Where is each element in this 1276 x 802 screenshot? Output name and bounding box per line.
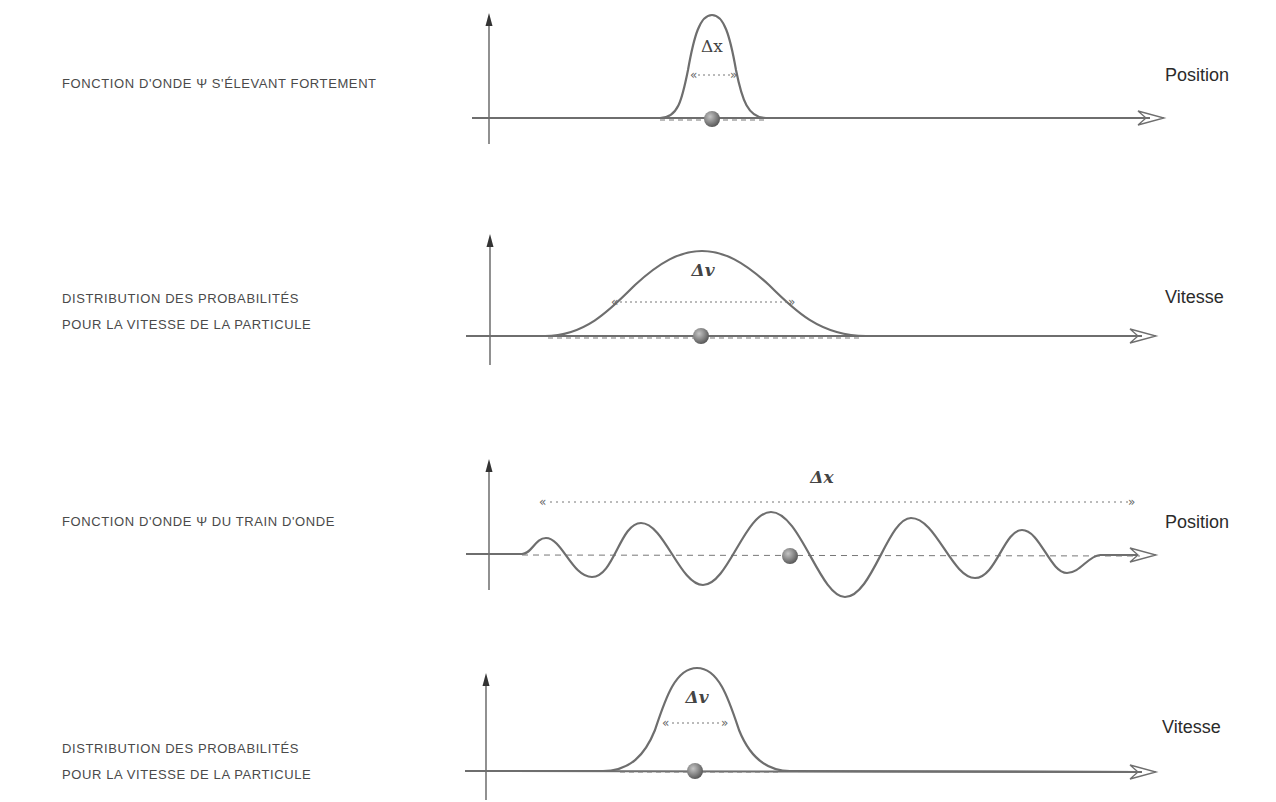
double-chevron-right-icon: » [730, 68, 737, 82]
panel-2-curve [466, 251, 1142, 336]
double-chevron-right-icon: » [721, 716, 728, 730]
double-chevron-right-icon: » [788, 295, 795, 309]
panel-4-delta-label: Δv [684, 687, 709, 707]
panel-4: Δv « » [465, 668, 1156, 800]
panel-2-particle-icon [693, 328, 709, 344]
panel-1: Δx « » [472, 13, 1164, 144]
panel-2-width-indicator: « » [611, 295, 795, 309]
panel-3-particle-icon [782, 548, 798, 564]
panel-3-y-arrowhead-icon [486, 459, 493, 472]
panel-3-y-axis [486, 459, 493, 590]
panel-1-particle-icon [704, 111, 720, 127]
panel-1-y-arrowhead-icon [486, 13, 493, 26]
panel-2-y-axis [487, 234, 494, 365]
panel-4-curve [465, 668, 1142, 772]
double-chevron-left-icon: « [690, 68, 697, 82]
panel-1-y-axis [486, 13, 493, 144]
double-chevron-right-icon: » [1128, 495, 1135, 509]
diagram-canvas: Δx « » Δv « » [0, 0, 1276, 802]
panel-1-delta-label: Δx [701, 36, 723, 56]
panel-2: Δv « » [466, 234, 1156, 365]
panel-3-x-axis [1100, 548, 1156, 562]
panel-2-delta-label: Δv [690, 260, 715, 280]
panel-1-width-indicator: « » [690, 68, 737, 82]
double-chevron-left-icon: « [662, 716, 669, 730]
double-chevron-left-icon: « [539, 495, 546, 509]
panel-1-curve [472, 15, 1150, 118]
panel-4-y-axis [483, 673, 490, 800]
double-chevron-left-icon: « [611, 295, 618, 309]
panel-3-delta-label: Δx [809, 467, 834, 487]
panel-3-width-indicator: « » [539, 495, 1135, 509]
panel-2-y-arrowhead-icon [487, 234, 494, 247]
panel-4-width-indicator: « » [662, 716, 728, 730]
panel-4-particle-icon [687, 763, 703, 779]
panel-4-y-arrowhead-icon [483, 673, 490, 686]
panel-3: Δx « » [466, 459, 1156, 597]
